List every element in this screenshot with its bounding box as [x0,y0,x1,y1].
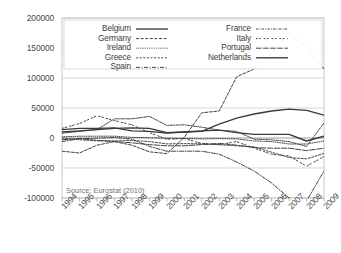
legend-label-netherlands: Netherlands [141,53,251,62]
legend-label-spain: Spain [21,62,131,71]
y-tick-label: 50000 [2,103,54,113]
y-tick-label: 0 [2,133,54,143]
legend-label-greece: Greece [21,53,131,62]
y-tick-label: 100000 [2,73,54,83]
source-note: Source: Eurostat (2010) [66,186,144,195]
y-tick-label: -100000 [2,193,54,203]
y-tick-label: -50000 [2,163,54,173]
legend-label-france: France [141,24,251,33]
legend-label-germany: Germany [21,34,131,43]
legend-label-belgium: Belgium [21,24,131,33]
legend-label-portugal: Portugal [141,43,251,52]
legend-label-ireland: Ireland [21,43,131,52]
y-tick-label: 200000 [2,13,54,23]
legend-label-italy: Italy [141,34,251,43]
